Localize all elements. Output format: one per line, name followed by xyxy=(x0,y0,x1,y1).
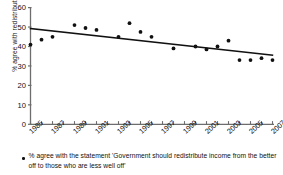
data-point xyxy=(227,39,231,43)
scatter-plot-svg: 0102030405060 xyxy=(0,0,283,175)
data-point xyxy=(205,48,209,52)
data-point xyxy=(271,58,275,62)
data-point xyxy=(150,35,154,39)
data-point xyxy=(139,30,143,34)
y-tick-label-0: 0 xyxy=(22,120,26,129)
data-point xyxy=(172,47,176,51)
y-tick-label-10: 10 xyxy=(18,101,26,110)
y-tick-label-20: 20 xyxy=(18,81,26,90)
data-point xyxy=(249,58,253,62)
y-tick-label-40: 40 xyxy=(18,42,26,51)
y-tick-label-30: 30 xyxy=(18,62,26,71)
data-point xyxy=(73,23,77,27)
y-tick-label-60: 60 xyxy=(18,3,26,12)
data-point xyxy=(260,56,264,60)
data-point xyxy=(29,43,33,47)
data-point xyxy=(51,35,55,39)
chart-caption: % agree with the statement 'Government s… xyxy=(22,151,283,170)
data-point xyxy=(95,28,99,32)
data-point xyxy=(128,21,132,25)
y-axis-tick-labels: 0102030405060 xyxy=(18,3,26,129)
data-point xyxy=(216,45,220,49)
data-point xyxy=(117,35,121,39)
data-point xyxy=(84,26,88,30)
scatter-dot-icon xyxy=(22,157,25,160)
data-point xyxy=(40,38,44,42)
data-point xyxy=(194,45,198,49)
caption-text: % agree with the statement 'Government s… xyxy=(29,151,283,170)
data-point xyxy=(238,58,242,62)
chart-container: % agree with redistribution 010203040506… xyxy=(0,0,283,175)
y-tick-label-50: 50 xyxy=(18,23,26,32)
trend-line xyxy=(31,29,273,55)
